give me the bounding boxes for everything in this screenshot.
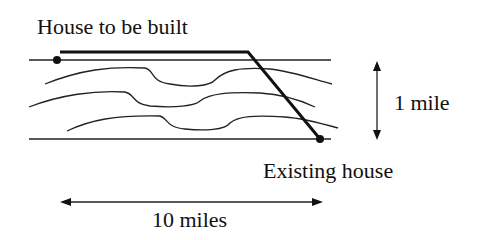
new-house-dot [53,56,61,64]
existing-house-dot [316,135,324,143]
width-dimension-label: 1 mile [394,90,450,115]
arrow-left-icon [60,198,71,206]
river-pipeline-diagram: House to be built Existing house 1 mile … [0,0,484,240]
river-current-line-1 [45,68,332,87]
length-dimension-label: 10 miles [152,207,227,232]
river-current-line-2 [29,92,315,107]
arrow-right-icon [312,198,323,206]
existing-house-label: Existing house [263,158,393,183]
arrow-down-icon [373,130,381,140]
arrow-up-icon [373,61,381,71]
river-current-line-3 [67,116,338,131]
new-house-label: House to be built [37,14,188,39]
